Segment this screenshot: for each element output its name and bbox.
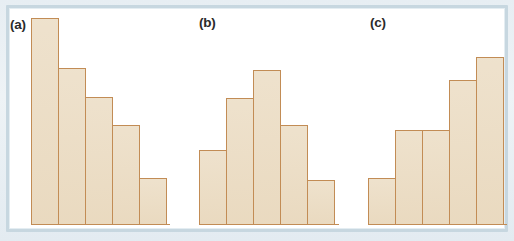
bar (422, 130, 450, 225)
bar (112, 125, 140, 225)
bar (253, 70, 281, 225)
bar (226, 98, 254, 225)
panel-a-label: (a) (10, 18, 26, 32)
panel-a: (a) (0, 0, 190, 241)
histogram-panels: (a) (b) (c) (0, 0, 514, 241)
panel-c-bars (368, 15, 504, 225)
bar (31, 18, 59, 225)
bar (307, 180, 335, 225)
bar (85, 97, 113, 225)
bar (280, 125, 308, 225)
bar (476, 57, 504, 225)
panel-b-bars (199, 15, 335, 225)
panel-a-bars (31, 15, 167, 225)
bar (58, 68, 86, 225)
panel-b: (b) (190, 0, 350, 241)
bar (199, 150, 227, 225)
bar (449, 80, 477, 225)
panel-c: (c) (350, 0, 514, 241)
figure-root: (a) (b) (c) (0, 0, 514, 241)
bar (139, 178, 167, 225)
bar (368, 178, 396, 225)
bar (395, 130, 423, 225)
